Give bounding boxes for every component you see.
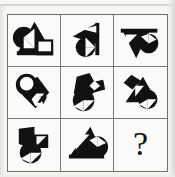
cell-r2c3-figure bbox=[114, 67, 167, 118]
cell-r2c1[interactable] bbox=[8, 67, 61, 119]
cell-r3c1-figure bbox=[8, 119, 60, 171]
cell-r1c2-figure bbox=[61, 15, 113, 66]
scan-artifact-top-rule bbox=[0, 4, 175, 6]
question-mark-icon: ? bbox=[114, 119, 167, 171]
cell-r2c2-figure bbox=[61, 67, 113, 118]
cell-r2c3[interactable] bbox=[114, 67, 167, 119]
cell-r1c2[interactable] bbox=[61, 15, 114, 67]
cell-r3c2[interactable] bbox=[61, 119, 114, 171]
cell-r2c1-figure bbox=[8, 67, 60, 118]
matrix-grid: ? bbox=[7, 14, 168, 172]
cell-r1c3-figure bbox=[114, 15, 167, 66]
scanned-page: ? bbox=[0, 0, 175, 177]
scan-artifact-left-edge bbox=[0, 6, 6, 177]
cell-r3c2-figure bbox=[61, 119, 113, 171]
cell-r1c1[interactable] bbox=[8, 15, 61, 67]
cell-r1c3[interactable] bbox=[114, 15, 167, 67]
scan-artifact-bottom-edge bbox=[0, 172, 175, 177]
cell-r2c2[interactable] bbox=[61, 67, 114, 119]
cell-r1c1-figure bbox=[8, 15, 60, 66]
cell-r3c1[interactable] bbox=[8, 119, 61, 171]
cell-r3c3-answer[interactable]: ? bbox=[114, 119, 167, 171]
scan-artifact-right-edge bbox=[168, 0, 175, 177]
